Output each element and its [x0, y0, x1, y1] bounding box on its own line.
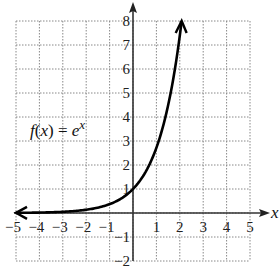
x-tick-label: 5	[246, 219, 254, 235]
chart-labels: xf(x) = ex	[30, 117, 279, 222]
y-tick-label: 7	[123, 37, 131, 53]
y-tick-label: 5	[123, 85, 131, 101]
x-tick-label: −2	[75, 219, 91, 235]
y-tick-label: −2	[114, 253, 130, 269]
x-tick-label: 4	[223, 219, 231, 235]
x-tick-label: 3	[199, 219, 207, 235]
y-tick-label: 3	[123, 133, 131, 149]
y-tick-label: 8	[123, 13, 131, 29]
y-tick-label: 6	[123, 61, 131, 77]
x-tick-label: −3	[52, 219, 68, 235]
x-tick-label: −1	[99, 219, 115, 235]
x-tick-label: −4	[28, 219, 44, 235]
x-tick-label: 2	[176, 219, 184, 235]
y-tick-label: 4	[123, 109, 131, 125]
exponential-function-graph: −5−4−3−2−11234587654321−1−2 xf(x) = ex	[0, 0, 279, 278]
y-tick-label: 2	[123, 157, 131, 173]
function-label: f(x) = ex	[30, 117, 85, 140]
x-tick-label: 1	[153, 219, 161, 235]
x-axis-label: x	[270, 203, 279, 222]
y-tick-label: −1	[114, 229, 130, 245]
tick-labels: −5−4−3−2−11234587654321−1−2	[5, 13, 254, 269]
x-tick-label: −5	[5, 219, 21, 235]
